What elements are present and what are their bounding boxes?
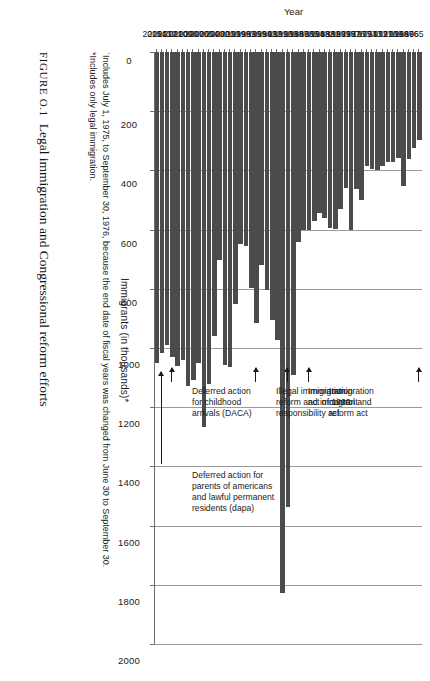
- figure-caption: FIGURE O.1Legal immigration and Congress…: [36, 52, 52, 406]
- bar-row: [254, 52, 259, 644]
- bar: [270, 52, 275, 320]
- category-axis-tick: [240, 49, 241, 52]
- bar: [396, 52, 401, 158]
- annotation-line: parents of americans: [192, 481, 274, 492]
- bar-row: [407, 52, 412, 644]
- bar: [317, 52, 322, 213]
- category-axis-tick: [203, 49, 204, 52]
- figure-caption-text: Legal immigration and Congressional refo…: [37, 124, 52, 407]
- bar-row: [380, 52, 385, 644]
- bar: [370, 52, 375, 169]
- bar-row: [217, 52, 222, 644]
- bar: [417, 52, 422, 140]
- bar: [254, 52, 259, 323]
- bar: [401, 52, 406, 186]
- bar-row: [275, 52, 280, 644]
- category-axis-tick: [192, 49, 193, 52]
- bar-row: [401, 52, 406, 644]
- category-axis-tick: [261, 49, 262, 52]
- bar-chart-plot-area: 0200400600800100012001400160018002000 19…: [154, 52, 422, 644]
- bar-row: [307, 52, 312, 644]
- bar: [328, 52, 333, 228]
- category-axis-tick: [303, 49, 304, 52]
- category-axis-tick: [208, 49, 209, 52]
- bar: [238, 52, 243, 244]
- category-axis-tick: [171, 49, 172, 52]
- category-axis-tick: [350, 49, 351, 52]
- category-axis-tick: [418, 49, 419, 52]
- bar-row: [238, 52, 243, 644]
- bar-row: [333, 52, 338, 644]
- bar-row: [270, 52, 275, 644]
- annotation-dapa: Deferred action forparents of americansa…: [192, 470, 274, 514]
- bar-row: [344, 52, 349, 644]
- bar: [354, 52, 359, 189]
- annotation-line: reform and immigrant: [276, 397, 358, 408]
- bar-row: [265, 52, 270, 644]
- bar-row: [202, 52, 207, 644]
- annotation-arrow-ia1990: [287, 368, 288, 382]
- annotation-line: residents (dapa): [192, 503, 274, 514]
- gridline: [154, 644, 422, 645]
- value-axis-tick-label: 400: [121, 179, 137, 190]
- bar: [154, 52, 159, 363]
- bar-row: [259, 52, 264, 644]
- category-axis-tick: [250, 49, 251, 52]
- annotation-iirira: Illegal immigrationreform and immigrantr…: [276, 386, 358, 419]
- bar: [202, 52, 207, 427]
- bar-row: [317, 52, 322, 644]
- bar: [286, 52, 291, 507]
- bar: [380, 52, 385, 166]
- category-axis-tick: [329, 49, 330, 52]
- bar-row: [160, 52, 165, 644]
- category-axis-tick: [361, 49, 362, 52]
- bar: [344, 52, 349, 188]
- footnote-1: ˈIncludes July 1, 1975, to September 30,…: [99, 52, 112, 567]
- bar: [280, 52, 285, 593]
- category-axis-tick: [319, 49, 320, 52]
- footnote-2: *Includes only legal immigration.: [86, 52, 99, 567]
- bar: [217, 52, 222, 260]
- category-axis-tick: [387, 49, 388, 52]
- annotation-arrow-ina-amendments: [418, 368, 419, 382]
- bar-row: [233, 52, 238, 644]
- bar-row: [323, 52, 328, 644]
- bar-row: [175, 52, 180, 644]
- annotation-line: for childhood: [192, 397, 252, 408]
- bar-row: [165, 52, 170, 644]
- bar: [275, 52, 280, 340]
- bar: [212, 52, 217, 336]
- bar-row: [312, 52, 317, 644]
- category-axis-tick: [403, 49, 404, 52]
- bar-row: [354, 52, 359, 644]
- value-axis-tick-label: 2000: [118, 655, 140, 666]
- bar: [165, 52, 170, 345]
- bar: [349, 52, 354, 230]
- annotation-line: and lawful permanent: [192, 492, 274, 503]
- bar: [160, 52, 165, 353]
- bar: [333, 52, 338, 229]
- bar-row: [386, 52, 391, 644]
- category-axis-tick: [376, 49, 377, 52]
- bar: [170, 52, 175, 357]
- bar-row: [170, 52, 175, 644]
- bar-row: [286, 52, 291, 644]
- annotation-arrow-daca: [171, 368, 172, 382]
- bar-row: [370, 52, 375, 644]
- bar: [191, 52, 196, 380]
- bar: [233, 52, 238, 304]
- category-axis-tick: [166, 49, 167, 52]
- bar-row: [417, 52, 422, 644]
- category-axis-tick: [340, 49, 341, 52]
- bar-row: [223, 52, 228, 644]
- bar-row: [228, 52, 233, 644]
- category-axis-tick: [382, 49, 383, 52]
- category-axis-tick: [313, 49, 314, 52]
- category-axis-tick: [266, 49, 267, 52]
- bar: [296, 52, 301, 242]
- category-axis-tick: [282, 49, 283, 52]
- bar: [181, 52, 186, 360]
- category-axis-tick: [324, 49, 325, 52]
- bar-row: [328, 52, 333, 644]
- bar: [338, 52, 343, 209]
